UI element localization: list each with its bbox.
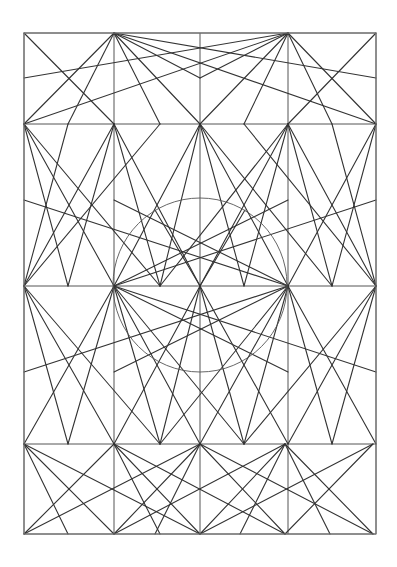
geometric-drawing [0,0,397,567]
